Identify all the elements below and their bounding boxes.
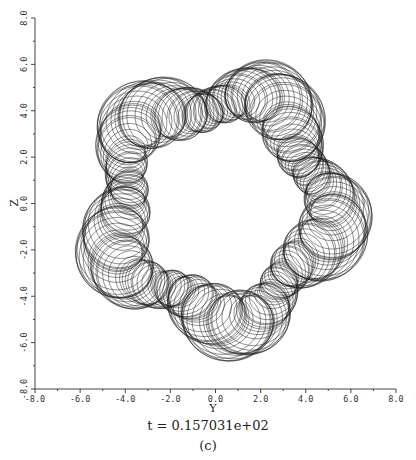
phase-plot: -8.0-6.0-4.0-2.00.02.04.06.08.0-8.0-6.0-… (0, 0, 416, 415)
y-axis-label: Z (8, 199, 21, 207)
x-tick-label: 6.0 (343, 394, 358, 404)
y-tick-label: 8.0 (19, 10, 29, 25)
y-tick-label: -8.0 (19, 379, 29, 399)
x-axis-label: Y (208, 402, 217, 415)
trajectory-curve (75, 60, 372, 361)
y-tick-label: 6.0 (19, 57, 29, 72)
y-tick-label: -2.0 (19, 240, 29, 260)
x-tick-label: 2.0 (253, 394, 268, 404)
x-tick-label: 4.0 (298, 394, 313, 404)
x-tick-label: -6.0 (70, 394, 90, 404)
y-tick-label: 4.0 (19, 103, 29, 118)
time-caption: t = 0.157031e+02 (0, 418, 416, 433)
y-tick-label: -6.0 (19, 332, 29, 352)
x-tick-label: 8.0 (388, 394, 403, 404)
y-tick-label: 2.0 (19, 149, 29, 164)
panel-label: (c) (0, 438, 416, 453)
axes: -8.0-6.0-4.0-2.00.02.04.06.08.0-8.0-6.0-… (19, 10, 404, 404)
y-tick-label: -4.0 (19, 286, 29, 306)
x-tick-label: -4.0 (115, 394, 135, 404)
x-tick-label: -2.0 (160, 394, 180, 404)
